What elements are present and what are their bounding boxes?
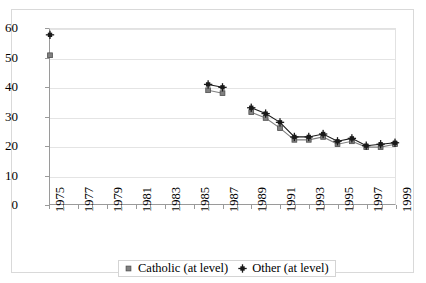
x-tickmark	[338, 205, 339, 209]
data-point-cross	[239, 264, 247, 272]
x-tick-label: 1989	[256, 187, 269, 212]
data-point-cross	[204, 80, 212, 88]
x-tickmark	[382, 205, 383, 209]
x-tickmark	[92, 205, 93, 209]
x-tickmark	[266, 205, 267, 209]
x-tick-label: 1983	[170, 187, 183, 212]
y-tickmark	[45, 28, 49, 29]
x-tick-label: 1997	[372, 187, 385, 212]
x-tickmark	[194, 205, 195, 209]
x-tick-label: 1981	[141, 187, 154, 212]
x-tickmark	[78, 205, 79, 209]
y-tick-label: 20	[0, 139, 18, 152]
x-tickmark	[353, 205, 354, 209]
x-tickmark	[165, 205, 166, 209]
legend-square-marker-icon	[123, 263, 134, 274]
x-tickmark	[208, 205, 209, 209]
y-tick-label: 30	[0, 110, 18, 123]
x-tick-label: 1987	[228, 187, 241, 212]
data-point-square	[126, 266, 131, 271]
x-tickmark	[179, 205, 180, 209]
data-point-square	[220, 91, 225, 96]
legend-entry: Catholic (at level)	[123, 262, 228, 275]
y-tickmark	[45, 176, 49, 177]
data-point-cross	[391, 139, 399, 147]
x-tick-label: 1993	[314, 187, 327, 212]
series-catholic	[48, 53, 398, 150]
x-tickmark	[324, 205, 325, 209]
legend-cross-marker-icon	[237, 263, 248, 274]
x-tickmark	[49, 205, 50, 209]
y-tickmark	[45, 58, 49, 59]
data-point-square	[206, 88, 211, 93]
legend-label: Catholic (at level)	[138, 262, 228, 275]
series-other	[46, 31, 399, 150]
data-point-square	[278, 126, 283, 131]
y-tickmark	[45, 87, 49, 88]
x-tick-label: 1985	[199, 187, 212, 212]
x-tick-label: 1977	[83, 187, 96, 212]
legend-label: Other (at level)	[252, 262, 328, 275]
data-point-cross	[218, 83, 226, 91]
series-line	[251, 108, 395, 146]
x-tickmark	[107, 205, 108, 209]
data-point-cross	[333, 137, 341, 145]
data-point-cross	[319, 130, 327, 138]
chart-frame: 0102030405060 19751977197919811983198519…	[11, 9, 414, 273]
chart-legend: Catholic (at level)Other (at level)	[118, 260, 336, 277]
x-tickmark	[295, 205, 296, 209]
y-tickmark	[45, 146, 49, 147]
y-tick-label: 60	[0, 21, 18, 34]
x-tick-label: 1979	[112, 187, 125, 212]
data-point-cross	[348, 134, 356, 142]
y-tick-label: 40	[0, 80, 18, 93]
x-tickmark	[63, 205, 64, 209]
data-point-cross	[362, 142, 370, 150]
data-point-cross	[46, 31, 54, 39]
plot-area	[49, 28, 396, 205]
y-tick-label: 0	[0, 198, 18, 211]
x-tickmark	[280, 205, 281, 209]
y-tick-label: 10	[0, 169, 18, 182]
x-tickmark	[223, 205, 224, 209]
x-tickmark	[251, 205, 252, 209]
data-point-cross	[247, 104, 255, 112]
legend-entry: Other (at level)	[237, 262, 328, 275]
x-tick-label: 1999	[401, 187, 414, 212]
x-tickmark	[309, 205, 310, 209]
x-tickmark	[237, 205, 238, 209]
x-tickmark	[396, 205, 397, 209]
x-tick-label: 1975	[54, 187, 67, 212]
x-tickmark	[367, 205, 368, 209]
x-tickmark	[136, 205, 137, 209]
series-plot	[50, 29, 395, 204]
x-tickmark	[150, 205, 151, 209]
y-tickmark	[45, 117, 49, 118]
y-tick-label: 50	[0, 51, 18, 64]
x-tick-label: 1991	[285, 187, 298, 212]
x-tickmark	[121, 205, 122, 209]
x-tick-label: 1995	[343, 187, 356, 212]
